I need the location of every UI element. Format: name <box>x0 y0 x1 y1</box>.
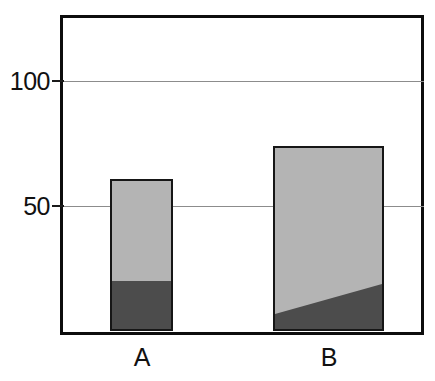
x-axis-label-a: A <box>111 345 173 370</box>
gridline-100 <box>60 81 424 82</box>
bar-category-a[interactable] <box>110 179 173 332</box>
bar-a-lower-segment <box>112 281 171 330</box>
bar-a-upper-segment <box>112 181 171 281</box>
y-axis-label-50: 50 <box>0 194 50 219</box>
y-tick-mark-100 <box>52 80 64 82</box>
bar-category-b[interactable] <box>273 146 384 331</box>
x-axis-label-b: B <box>298 345 360 370</box>
bar-b-lower-segment <box>275 146 382 329</box>
bar-b-diagonal-shape <box>275 146 382 329</box>
y-tick-mark-50 <box>52 205 64 207</box>
y-axis-label-100: 100 <box>0 69 50 94</box>
bar-chart: 100 50 A B <box>0 0 435 381</box>
